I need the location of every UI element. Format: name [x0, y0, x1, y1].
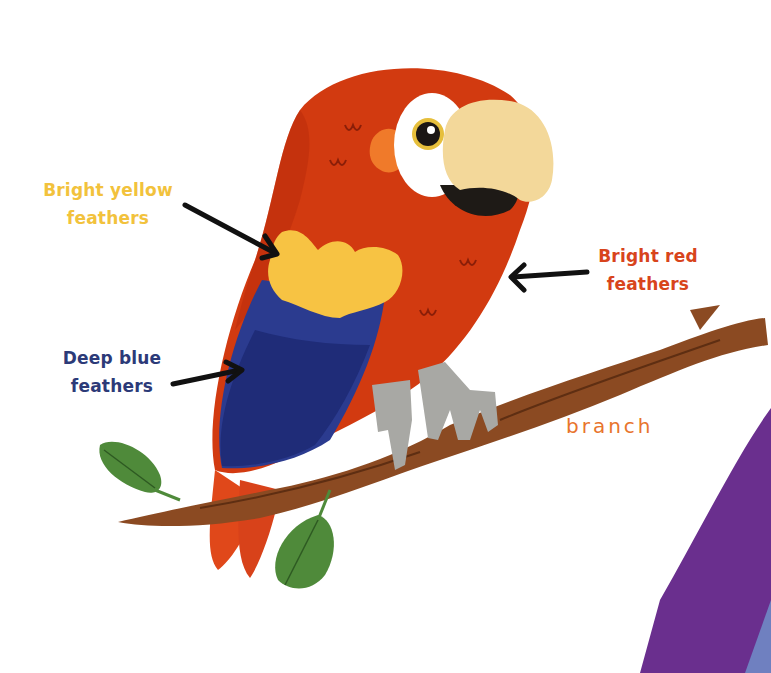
parrot-illustration: [0, 0, 771, 673]
parrot-tail: [210, 470, 280, 578]
parrot-diagram: Bright yellow feathers Bright red feathe…: [0, 0, 771, 673]
label-branch: branch: [566, 414, 654, 438]
label-line: feathers: [52, 372, 172, 400]
label-red-feathers: Bright red feathers: [588, 242, 708, 298]
label-line: Bright yellow: [38, 176, 178, 204]
label-line: feathers: [588, 270, 708, 298]
label-line: Deep blue: [52, 344, 172, 372]
purple-shape: [640, 408, 771, 673]
label-line: Bright red: [588, 242, 708, 270]
label-line: feathers: [38, 204, 178, 232]
beak: [440, 100, 553, 216]
arrow-blue-icon: [173, 362, 242, 384]
label-blue-feathers: Deep blue feathers: [52, 344, 172, 400]
arrow-red-icon: [511, 265, 587, 290]
label-yellow-feathers: Bright yellow feathers: [38, 176, 178, 232]
